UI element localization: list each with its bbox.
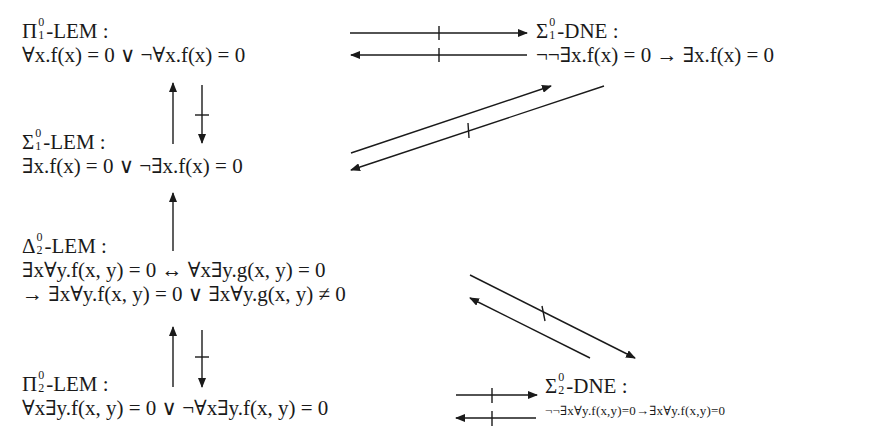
- node-title: Π01-LEM :: [22, 19, 245, 43]
- arrow-pi01lem-to-sigma01dne: [350, 26, 527, 40]
- index-superscript-subscript: 02: [557, 374, 566, 392]
- node-sigma01-dne: Σ01-DNE : ¬¬∃x.f(x) = 0 → ∃x.f(x) = 0: [536, 19, 774, 67]
- node-title: Σ01-DNE :: [536, 19, 774, 43]
- node-pi01-lem: Π01-LEM : ∀x.f(x) = 0 ∨ ¬∀x.f(x) = 0: [22, 19, 245, 67]
- index-superscript-subscript: 01: [34, 130, 43, 148]
- superscript: 0: [558, 371, 564, 383]
- node-sigma02-dne: Σ02-DNE : ¬¬∃x∀y.f(x,y)=0→∃x∀y.f(x,y)=0: [545, 374, 725, 419]
- superscript: 0: [37, 231, 43, 243]
- node-formula: ∀x.f(x) = 0 ∨ ¬∀x.f(x) = 0: [22, 43, 245, 67]
- principle-name: -LEM :: [46, 19, 108, 43]
- arrow-sigma02dne-to-delta02lem: [470, 298, 590, 358]
- node-formula-line2: → ∃x∀y.f(x, y) = 0 ∨ ∃x∀y.g(x, y) ≠ 0: [22, 282, 346, 306]
- sigma-symbol: Σ: [22, 130, 34, 154]
- subscript: 1: [549, 29, 555, 41]
- index-superscript-subscript: 01: [37, 19, 46, 37]
- subscript: 2: [38, 382, 44, 394]
- node-delta02-lem: Δ02-LEM : ∃x∀y.f(x, y) = 0 ↔ ∀x∃y.g(x, y…: [22, 234, 346, 306]
- principle-name: -DNE :: [557, 19, 618, 43]
- arrow-sigma01dne-to-pi01lem: [351, 48, 527, 62]
- principle-name: -DNE :: [566, 374, 627, 398]
- subscript: 1: [35, 140, 41, 152]
- superscript: 0: [38, 369, 44, 381]
- arrow-sigma01lem-to-sigma01dne: [351, 86, 551, 153]
- node-formula: ∃x∀y.f(x, y) = 0 ↔ ∀x∃y.g(x, y) = 0: [22, 258, 346, 282]
- sigma-symbol: Σ: [545, 374, 557, 398]
- delta-symbol: Δ: [22, 234, 36, 258]
- node-title: Σ01-LEM :: [22, 130, 243, 154]
- node-formula: ¬¬∃x.f(x) = 0 → ∃x.f(x) = 0: [536, 43, 774, 67]
- pi-symbol: Π: [22, 19, 37, 43]
- node-formula: ¬¬∃x∀y.f(x,y)=0→∃x∀y.f(x,y)=0: [545, 403, 725, 419]
- principle-name: -LEM :: [46, 372, 108, 396]
- node-formula: ∃x.f(x) = 0 ∨ ¬∃x.f(x) = 0: [22, 154, 243, 178]
- node-pi02-lem: Π02-LEM : ∀x∃y.f(x, y) = 0 ∨ ¬∀x∃y.f(x, …: [22, 372, 328, 420]
- arrow-sigma01dne-to-sigma01lem: [351, 86, 604, 170]
- arrow-pi02lem-to-sigma02dne: [456, 388, 537, 403]
- principle-name: -LEM :: [45, 234, 107, 258]
- index-superscript-subscript: 02: [37, 372, 46, 390]
- pi-symbol: Π: [22, 372, 37, 396]
- superscript: 0: [38, 16, 44, 28]
- node-title: Σ02-DNE :: [545, 374, 725, 398]
- arrow-sigma02dne-to-pi02lem: [456, 411, 536, 426]
- principle-name: -LEM :: [43, 130, 105, 154]
- superscript: 0: [35, 127, 41, 139]
- superscript: 0: [549, 16, 555, 28]
- node-title: Δ02-LEM :: [22, 234, 346, 258]
- node-sigma01-lem: Σ01-LEM : ∃x.f(x) = 0 ∨ ¬∃x.f(x) = 0: [22, 130, 243, 178]
- subscript: 2: [558, 384, 564, 396]
- index-superscript-subscript: 02: [36, 234, 45, 252]
- sigma-symbol: Σ: [536, 19, 548, 43]
- node-formula: ∀x∃y.f(x, y) = 0 ∨ ¬∀x∃y.f(x, y) = 0: [22, 396, 328, 420]
- arrow-delta02lem-to-sigma02dne: [470, 275, 635, 358]
- index-superscript-subscript: 01: [548, 19, 557, 37]
- node-title: Π02-LEM :: [22, 372, 328, 396]
- subscript: 1: [38, 29, 44, 41]
- subscript: 2: [37, 244, 43, 256]
